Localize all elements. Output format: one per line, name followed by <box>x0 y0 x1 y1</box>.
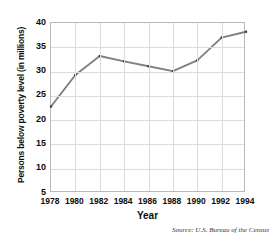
gridline-vertical <box>149 23 150 191</box>
poverty-line-chart: Persons below poverty level (in millions… <box>0 0 273 242</box>
y-axis-tick-label: 15 <box>0 138 46 149</box>
gridline-vertical <box>124 23 125 191</box>
gridline-vertical <box>75 23 76 191</box>
y-axis-tick-label: 30 <box>0 65 46 76</box>
gridline-horizontal <box>51 169 244 170</box>
y-axis-tick-label: 40 <box>0 17 46 28</box>
y-axis-tick-label: 20 <box>0 114 46 125</box>
x-axis-tick-label: 1994 <box>225 196 265 207</box>
plot-area <box>50 22 245 192</box>
gridline-vertical <box>222 23 223 191</box>
data-point-marker <box>245 31 247 33</box>
y-axis-tick-label: 25 <box>0 89 46 100</box>
gridline-horizontal <box>51 96 244 97</box>
gridline-horizontal <box>51 144 244 145</box>
gridline-horizontal <box>51 72 244 73</box>
source-note: Source: U.S. Bureau of the Census <box>172 226 269 234</box>
data-point-marker <box>50 105 52 107</box>
gridline-horizontal <box>51 120 244 121</box>
gridline-vertical <box>173 23 174 191</box>
y-axis-tick-label: 35 <box>0 41 46 52</box>
y-axis-tick-label: 10 <box>0 162 46 173</box>
gridline-vertical <box>197 23 198 191</box>
x-axis-title: Year <box>50 210 245 221</box>
x-axis-tick-labels: 197819801982198419861988199019921994 <box>50 196 245 208</box>
gridline-vertical <box>100 23 101 191</box>
gridline-horizontal <box>51 47 244 48</box>
